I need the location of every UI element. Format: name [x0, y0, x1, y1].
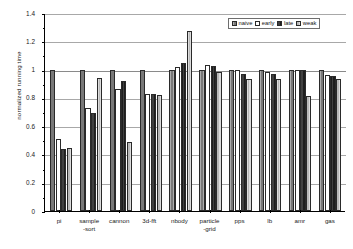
y-axis-tick-mark: [42, 127, 45, 128]
x-axis-tick-label: cannon: [109, 217, 129, 224]
y-axis-tick-label: 1.4: [9, 11, 35, 17]
x-axis-tick-mark: [149, 210, 150, 213]
y-axis-tick-label: 0.6: [9, 124, 35, 130]
y-axis-tick-mark: [42, 71, 45, 72]
bar-naive: [80, 70, 85, 211]
y-axis-minor-tick: [43, 85, 45, 86]
bar-naive: [319, 70, 324, 211]
bar-late: [61, 149, 66, 211]
x-axis-tick: particle-grid: [194, 213, 224, 247]
bar-early: [295, 70, 300, 211]
x-axis-tick-mark: [240, 210, 241, 213]
y-axis-tick-label: 0.4: [9, 152, 35, 158]
bar-early: [145, 94, 150, 211]
y-axis-minor-tick: [43, 198, 45, 199]
legend-swatch-weak: [296, 21, 301, 26]
y-axis-tick-mark: [42, 155, 45, 156]
x-axis-tick-label: lb: [267, 217, 272, 224]
x-axis-tick-label: pps: [235, 217, 245, 224]
bar-weak: [336, 79, 341, 211]
bar-late: [181, 63, 186, 212]
bar-group: [76, 14, 106, 211]
bar-naive: [229, 70, 234, 211]
bar-early: [325, 75, 330, 211]
bar-early: [265, 72, 270, 211]
bar-naive: [289, 70, 294, 211]
legend-item-late: late: [277, 21, 293, 27]
bar-group: [106, 14, 136, 211]
bar-group: [166, 14, 196, 211]
x-axis-tick-mark: [300, 210, 301, 213]
x-axis-tick-label: sample: [79, 217, 99, 224]
bar-late: [121, 81, 126, 211]
y-axis-tick-label: 1: [9, 67, 35, 73]
x-axis-tick: sample-sort: [74, 213, 104, 247]
y-axis-tick-label: 0.2: [9, 180, 35, 186]
y-axis-tick-label: 0.8: [9, 95, 35, 101]
bar-weak: [187, 31, 192, 211]
bar-late: [241, 74, 246, 211]
legend-item-naive: naive: [232, 21, 252, 27]
x-axis-tick-mark: [59, 210, 60, 213]
x-axis-tick-label-line2: -sort: [74, 225, 104, 233]
bar-group: [315, 14, 345, 211]
x-axis-tick: nbody: [164, 213, 194, 247]
bar-late: [151, 94, 156, 211]
bar-naive: [140, 70, 145, 211]
bar-early: [175, 67, 180, 211]
y-axis-minor-tick: [43, 28, 45, 29]
x-axis-tick: amr: [285, 213, 315, 247]
bar-group: [196, 14, 226, 211]
legend-item-early: early: [255, 21, 274, 27]
x-axis-tick-mark: [210, 210, 211, 213]
plot-area: 00.20.40.60.811.21.4: [44, 14, 345, 212]
bar-weak: [306, 96, 311, 211]
y-axis-minor-tick: [43, 113, 45, 114]
bar-group: [136, 14, 166, 211]
x-axis-tick: gas: [315, 213, 345, 247]
x-axis-tick-mark: [119, 210, 120, 213]
bar-weak: [97, 78, 102, 211]
x-axis-tick: cannon: [104, 213, 134, 247]
x-axis-tick-mark: [89, 210, 90, 213]
bar-late: [271, 74, 276, 211]
legend-label: weak: [303, 21, 317, 27]
x-axis-tick-label-line2: -grid: [194, 225, 224, 233]
y-axis-tick-mark: [42, 42, 45, 43]
bar-early: [115, 89, 120, 211]
bar-chart: normalized running time 00.20.40.60.811.…: [0, 0, 353, 249]
bar-groups: [46, 14, 345, 211]
y-axis-tick-label: 0: [9, 209, 35, 215]
bar-naive: [169, 70, 174, 211]
y-axis-minor-tick: [43, 141, 45, 142]
y-axis-tick-mark: [42, 184, 45, 185]
x-axis-tick-label: nbody: [171, 217, 188, 224]
bar-late: [211, 66, 216, 211]
bar-early: [205, 65, 210, 211]
legend-item-weak: weak: [296, 21, 316, 27]
bar-naive: [110, 70, 115, 211]
bar-early: [235, 70, 240, 211]
legend: naiveearlylateweak: [228, 18, 320, 29]
y-axis-tick-mark: [42, 14, 45, 15]
bar-naive: [259, 70, 264, 211]
x-axis-tick-label: gas: [325, 217, 335, 224]
x-axis-tick: lb: [255, 213, 285, 247]
bar-early: [85, 108, 90, 211]
bar-weak: [276, 79, 281, 211]
bar-group: [255, 14, 285, 211]
legend-label: early: [262, 21, 275, 27]
y-axis-tick-mark: [42, 99, 45, 100]
bar-weak: [67, 148, 72, 211]
y-axis-minor-tick: [43, 56, 45, 57]
x-axis-tick-label: amr: [294, 217, 305, 224]
bar-naive: [50, 70, 55, 211]
bar-late: [91, 113, 96, 211]
bar-weak: [157, 95, 162, 211]
legend-swatch-naive: [232, 21, 237, 26]
y-axis-minor-tick: [43, 170, 45, 171]
legend-swatch-late: [277, 21, 282, 26]
x-axis-labels: pisample-sortcannon3d-fftnbodyparticle-g…: [44, 213, 345, 247]
x-axis-tick: 3d-fft: [134, 213, 164, 247]
bar-weak: [216, 72, 221, 211]
